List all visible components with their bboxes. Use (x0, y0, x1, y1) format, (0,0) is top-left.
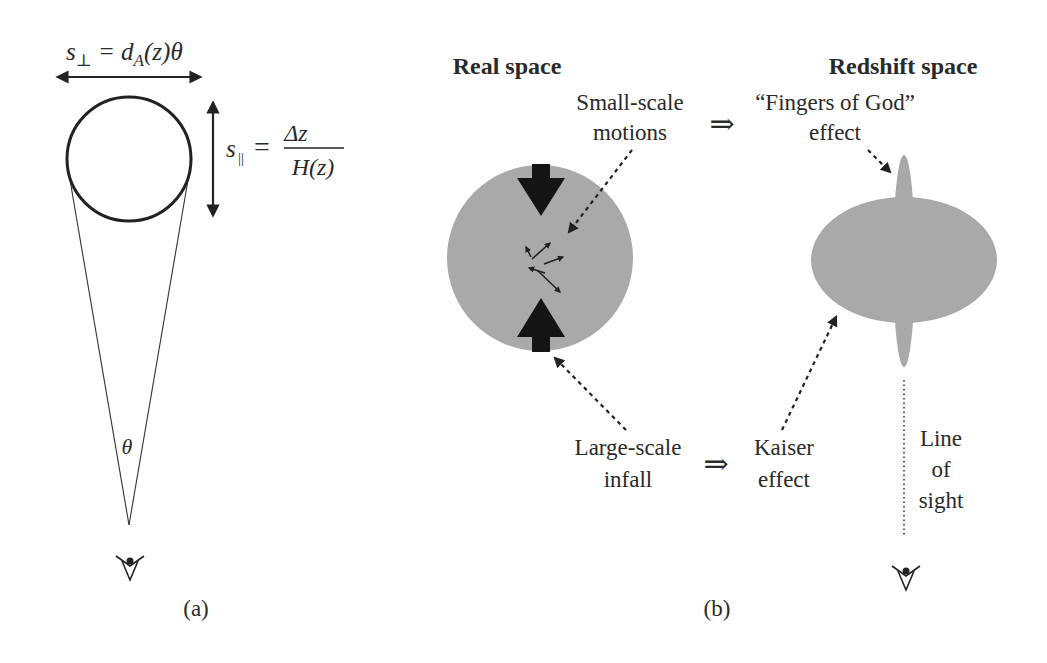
real-space-title: Real space (453, 53, 562, 79)
small-scale-label-line1: Small-scale (576, 90, 683, 115)
redshift-space-diagram: s⊥ = dA(z)θ s || = Δz H(z) θ (a) (0, 0, 1047, 663)
line-of-sight-line1: Line (920, 426, 962, 451)
cone-left-line (70, 180, 129, 525)
eye-icon (892, 566, 920, 590)
svg-text:H(z): H(z) (291, 154, 335, 180)
line-of-sight-line3: sight (919, 488, 964, 513)
panel-a-label: (a) (183, 596, 209, 621)
parallel-equation: s || = Δz H(z) (226, 120, 344, 180)
cone-right-line (129, 180, 188, 525)
svg-text:=: = (254, 131, 270, 162)
svg-text:s: s (226, 135, 236, 162)
line-of-sight-line2: of (931, 457, 951, 482)
pointer-large-scale (555, 358, 626, 430)
large-scale-label-line1: Large-scale (575, 435, 682, 460)
pointer-kaiser (782, 317, 836, 430)
panel-b-label: (b) (704, 596, 731, 621)
fingers-of-god-line1: “Fingers of God” (755, 90, 915, 115)
kaiser-label-line2: effect (758, 467, 811, 492)
implies-arrow-top: ⇒ (709, 107, 734, 140)
angle-theta-label: θ (122, 434, 133, 459)
eye-icon (116, 556, 144, 580)
pointer-fingers-of-god (868, 150, 890, 172)
kaiser-label-line1: Kaiser (754, 435, 814, 460)
svg-text:||: || (238, 150, 244, 166)
large-scale-label-line2: infall (604, 467, 653, 492)
implies-arrow-bottom: ⇒ (703, 447, 728, 480)
panel-b: Real space Redshift space Small-scale mo… (447, 53, 997, 621)
redshift-space-title: Redshift space (829, 53, 978, 79)
svg-text:Δz: Δz (283, 120, 308, 146)
perp-equation: s⊥ = dA(z)θ (66, 38, 183, 70)
redshift-space-shape (811, 155, 997, 367)
fingers-of-god-line2: effect (809, 120, 862, 145)
object-circle (67, 97, 191, 221)
panel-a: s⊥ = dA(z)θ s || = Δz H(z) θ (a) (58, 38, 344, 621)
small-scale-label-line2: motions (593, 120, 667, 145)
